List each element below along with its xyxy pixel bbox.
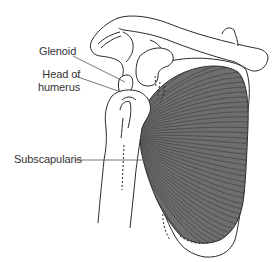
label-head-of-humerus-line2: humerus	[38, 81, 80, 94]
leader-line-head-of-humerus	[75, 76, 121, 92]
label-head-of-humerus-line1: Head of	[38, 68, 80, 81]
label-glenoid: Glenoid	[39, 45, 76, 58]
shoulder-diagram: Glenoid Head of humerus Subscapularis	[0, 0, 280, 262]
label-head-of-humerus: Head of humerus	[38, 68, 80, 94]
diagram-svg	[0, 0, 280, 262]
label-subscapularis: Subscapularis	[14, 153, 82, 166]
